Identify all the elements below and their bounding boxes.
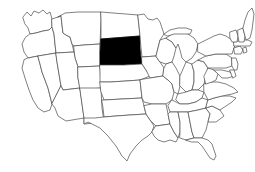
- state-south-dakota[interactable]: [100, 36, 142, 65]
- state-indiana[interactable]: [180, 62, 194, 92]
- state-connecticut[interactable]: [234, 46, 243, 54]
- state-kansas[interactable]: [100, 80, 142, 100]
- state-maine[interactable]: [243, 8, 254, 40]
- state-colorado[interactable]: [78, 66, 101, 90]
- state-wyoming[interactable]: [74, 44, 100, 67]
- state-north-dakota[interactable]: [101, 12, 140, 39]
- us-map-figure: [0, 0, 255, 172]
- us-states-map[interactable]: [0, 0, 255, 172]
- state-florida[interactable]: [186, 138, 216, 160]
- state-rhode-island[interactable]: [243, 47, 247, 53]
- state-vermont[interactable]: [230, 30, 238, 42]
- state-new-jersey[interactable]: [232, 58, 238, 70]
- state-texas[interactable]: [84, 114, 154, 161]
